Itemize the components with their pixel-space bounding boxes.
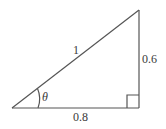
adjacent-label: 0.8: [73, 110, 88, 124]
opposite-label: 0.6: [142, 52, 157, 66]
right-angle-marker: [127, 95, 139, 108]
angle-label: θ: [42, 90, 48, 104]
triangle: [12, 10, 139, 108]
hypotenuse: [12, 10, 139, 108]
angle-arc: [38, 89, 40, 109]
hypotenuse-label: 1: [73, 43, 79, 57]
right-triangle-diagram: 1 0.6 0.8 θ: [0, 0, 166, 129]
